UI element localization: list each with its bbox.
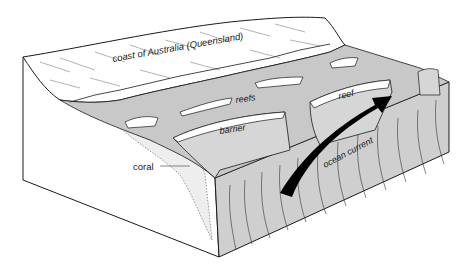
- label-coral: coral: [133, 161, 154, 172]
- edge-reef: [418, 69, 440, 95]
- reef-block-diagram: coast of Australia (Queensland) reefs re…: [0, 0, 474, 272]
